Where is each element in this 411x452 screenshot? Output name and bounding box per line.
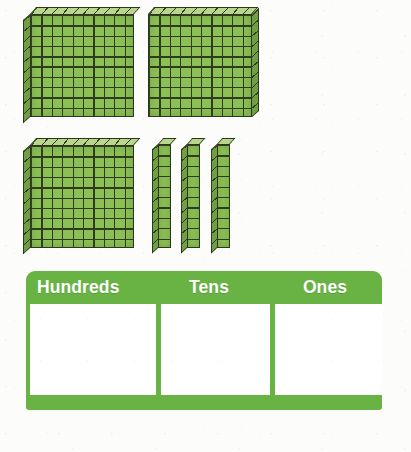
column-header-hundreds: Hundreds [26,271,156,304]
flat-side-edge [23,14,30,123]
hundreds-flat-3 [23,138,136,249]
answer-cell-tens[interactable] [161,304,271,395]
flat-side-edge [23,145,30,254]
flat-top-edge [148,7,258,14]
hundreds-flat-2 [148,7,261,118]
rod-face [158,144,171,248]
answer-cell-hundreds[interactable] [30,304,156,395]
flat-face [30,145,134,248]
column-header-tens: Tens [156,271,272,304]
tens-rod-3 [211,138,230,249]
rod-face [187,144,200,248]
place-value-table-body [26,304,382,410]
place-value-table-header: Hundreds Tens Ones [26,271,382,304]
flat-face [148,14,252,117]
flat-side-edge [252,8,259,117]
hundreds-flat-1 [23,7,136,118]
answer-cell-ones[interactable] [275,304,382,395]
rod-face [217,144,230,248]
flat-face [30,14,134,117]
tens-rod-2 [181,138,200,249]
flat-top-edge [30,138,140,145]
place-value-table: Hundreds Tens Ones [26,271,382,410]
column-header-ones: Ones [272,271,382,304]
flat-top-edge [30,7,140,14]
tens-rod-1 [152,138,171,249]
worksheet-page: Hundreds Tens Ones [0,0,411,452]
